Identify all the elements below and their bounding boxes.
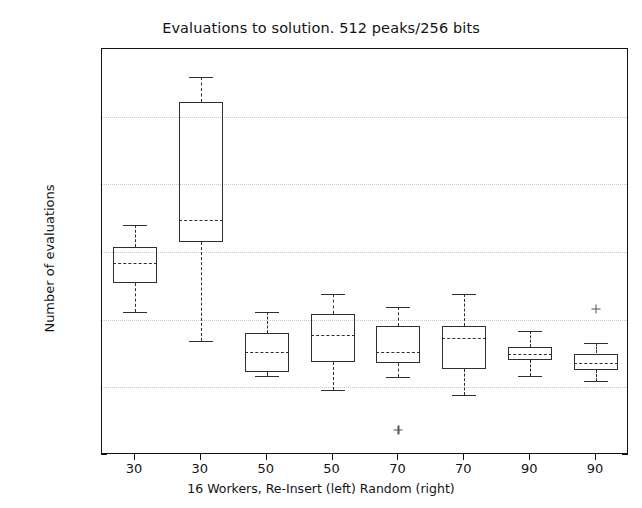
y-tick-mark-right: [622, 454, 628, 455]
x-tick-mark: [397, 454, 398, 460]
whisker-lower: [596, 370, 597, 380]
box-plot-figure: Evaluations to solution. 512 peaks/256 b…: [0, 0, 642, 508]
median-line: [574, 363, 618, 364]
chart-title: Evaluations to solution. 512 peaks/256 b…: [0, 20, 642, 36]
whisker-cap-lower: [584, 381, 608, 382]
x-tick-mark: [200, 454, 201, 460]
x-tick-mark: [529, 454, 530, 460]
box-plot-item[interactable]: [102, 49, 627, 453]
x-tick-mark: [595, 454, 596, 460]
y-axis-label: Number of evaluations: [42, 109, 57, 409]
x-tick-mark: [266, 454, 267, 460]
x-axis-label: 16 Workers, Re-Insert (left) Random (rig…: [0, 481, 642, 496]
y-tick-mark: [101, 454, 107, 455]
x-tick-mark: [134, 454, 135, 460]
outlier-marker: [592, 304, 601, 313]
x-tick-mark: [332, 454, 333, 460]
x-tick-label: 70: [389, 461, 406, 476]
x-tick-mark: [463, 454, 464, 460]
x-tick-label: 90: [587, 461, 604, 476]
x-tick-label: 90: [521, 461, 538, 476]
x-tick-label: 50: [323, 461, 340, 476]
whisker-upper: [596, 343, 597, 354]
box-iqr: [574, 354, 618, 371]
x-tick-label: 50: [257, 461, 274, 476]
x-tick-label: 30: [126, 461, 143, 476]
plot-area: [101, 48, 628, 454]
x-tick-label: 70: [455, 461, 472, 476]
whisker-cap-upper: [584, 343, 608, 344]
x-tick-label: 30: [192, 461, 209, 476]
